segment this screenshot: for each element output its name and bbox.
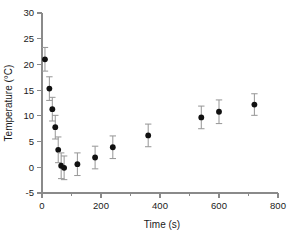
y-tick-label: 30	[23, 7, 34, 18]
data-point-marker	[55, 147, 61, 153]
y-tick-label: 15	[23, 85, 34, 96]
y-axis-title: Temperature (°C)	[3, 65, 14, 142]
y-tick-label: 10	[23, 110, 34, 121]
data-point-marker	[75, 161, 81, 167]
data-point-marker	[145, 133, 151, 139]
x-tick-label: 200	[93, 200, 109, 211]
y-tick-label: 5	[29, 136, 34, 147]
scatter-chart-figure: 0200400600800 -5051015202530 Time (s) Te…	[0, 0, 300, 236]
x-tick-label: 400	[152, 200, 168, 211]
y-tick-label: 20	[23, 59, 34, 70]
data-point-marker	[49, 106, 55, 112]
data-point-marker	[61, 165, 67, 171]
data-point-marker	[198, 115, 204, 121]
y-tick-label: 0	[29, 162, 34, 173]
chart-canvas: 0200400600800 -5051015202530 Time (s) Te…	[0, 0, 300, 236]
y-tick-label: 25	[23, 33, 34, 44]
data-points-group	[42, 47, 258, 179]
x-tick-label: 800	[270, 200, 286, 211]
y-tick-label: -5	[26, 187, 34, 198]
data-point-marker	[92, 155, 98, 161]
x-tick-label: 600	[211, 200, 227, 211]
data-point-marker	[52, 124, 58, 130]
data-point-marker	[46, 86, 52, 92]
x-tick-label: 0	[39, 200, 44, 211]
x-axis-title: Time (s)	[144, 219, 180, 230]
data-point-marker	[110, 144, 116, 150]
data-point-marker	[216, 109, 222, 115]
data-point-marker	[42, 56, 48, 62]
data-point-marker	[252, 102, 258, 108]
y-axis-ticks: -5051015202530	[23, 7, 42, 198]
x-axis-ticks: 0200400600800	[39, 193, 286, 211]
